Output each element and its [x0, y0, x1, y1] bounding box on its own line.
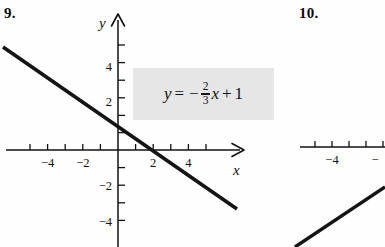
x-axis-label: x [232, 162, 240, 178]
y-tick-label-neg2: −2 [99, 179, 112, 193]
fraction-denominator: 3 [201, 95, 211, 107]
x-tick-label-4: 4 [185, 156, 192, 170]
equation-minus-sign: − [189, 84, 199, 104]
equation-fraction: 2 3 [201, 81, 211, 107]
coordinate-plane-9: y x −4 −2 2 4 4 2 −2 −4 [0, 0, 262, 247]
y-tick-label-neg4: −4 [99, 215, 113, 229]
fraction-numerator: 2 [201, 81, 211, 93]
equation-callout-9: y = − 2 3 x + 1 [133, 68, 274, 120]
coordinate-plane-10: −4 − [262, 0, 385, 247]
equation-equals: = [174, 84, 184, 104]
x-axis-ticks-partial [315, 141, 383, 147]
y-tick-label-4: 4 [106, 60, 113, 74]
textbook-page: 9. [0, 0, 385, 247]
equation-lhs: y [164, 84, 172, 104]
equation-variable: x [211, 84, 219, 104]
equation-constant: 1 [235, 84, 244, 104]
equation-expression: y = − 2 3 x + 1 [164, 81, 243, 107]
y-tick-label-2: 2 [106, 95, 112, 109]
x-tick-label-neg2: −2 [76, 156, 89, 170]
plotted-line-10 [295, 187, 385, 247]
x-tick-label-neg4: −4 [41, 156, 55, 170]
graph-problem-10: −4 − [262, 0, 385, 247]
x-axis [6, 144, 244, 157]
graph-problem-9: y x −4 −2 2 4 4 2 −2 −4 [0, 0, 262, 247]
equation-plus: + [222, 84, 232, 104]
y-axis-label: y [97, 15, 106, 31]
x-tick-label-partial-graph10: − [371, 153, 378, 167]
x-tick-label-neg4-graph10: −4 [325, 153, 339, 167]
x-tick-label-2: 2 [150, 156, 156, 170]
